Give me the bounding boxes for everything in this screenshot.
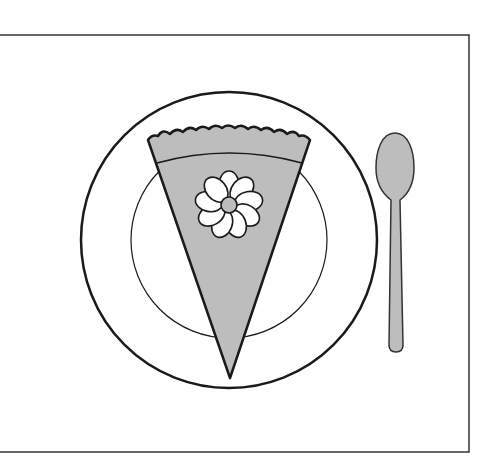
- spoon: [376, 133, 414, 352]
- flower-center: [221, 197, 237, 213]
- spoon-shape: [376, 133, 414, 352]
- pie-on-plate-illustration: [0, 0, 502, 476]
